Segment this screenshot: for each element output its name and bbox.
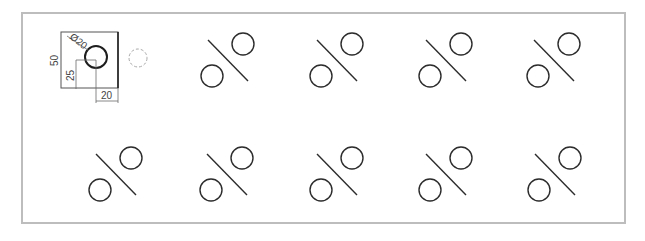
diameter-dimension-label: Ø20	[68, 31, 90, 52]
symbol-bottom-circle	[200, 179, 222, 201]
symbol-item	[310, 147, 363, 201]
symbol-bottom-circle	[310, 65, 332, 87]
symbol-diagonal-line	[208, 40, 248, 81]
symbol-top-circle	[450, 33, 472, 55]
symbol-bottom-circle	[201, 65, 223, 87]
reference-part-detail: Ø20 50 25 20	[49, 31, 118, 103]
symbol-top-circle	[341, 33, 363, 55]
drawing-frame	[22, 13, 625, 223]
symbol-bottom-circle	[89, 179, 111, 201]
symbol-top-circle	[231, 147, 253, 169]
symbol-diagonal-line	[426, 154, 466, 195]
symbol-diagonal-line	[534, 40, 574, 81]
symbol-bottom-circle	[527, 65, 549, 87]
hole-x-dimension-label: 20	[101, 90, 113, 101]
symbol-top-circle	[232, 33, 254, 55]
symbol-array	[89, 33, 581, 201]
symbol-bottom-circle	[419, 65, 441, 87]
symbol-bottom-circle	[310, 179, 332, 201]
symbol-item	[310, 33, 363, 87]
symbol-item	[89, 147, 142, 201]
symbol-item	[528, 147, 581, 201]
symbol-diagonal-line	[207, 154, 247, 195]
symbol-item	[527, 33, 580, 87]
symbol-item	[419, 147, 472, 201]
ghost-circle-preview	[129, 49, 147, 67]
symbol-diagonal-line	[535, 154, 575, 195]
hole-y-dimension-label: 25	[65, 69, 76, 81]
symbol-diagonal-line	[96, 154, 136, 195]
symbol-diagonal-line	[317, 154, 357, 195]
height-dimension-label: 50	[49, 54, 60, 66]
symbol-top-circle	[450, 147, 472, 169]
symbol-item	[200, 147, 253, 201]
symbol-diagonal-line	[317, 40, 357, 81]
symbol-item	[419, 33, 472, 87]
hole-y-dimension-lines	[76, 60, 96, 103]
symbol-top-circle	[558, 33, 580, 55]
symbol-diagonal-line	[426, 40, 466, 81]
symbol-bottom-circle	[419, 179, 441, 201]
symbol-bottom-circle	[528, 179, 550, 201]
symbol-top-circle	[559, 147, 581, 169]
symbol-item	[201, 33, 254, 87]
drawing-canvas: Ø20 50 25 20	[0, 0, 645, 241]
symbol-top-circle	[341, 147, 363, 169]
symbol-top-circle	[120, 147, 142, 169]
